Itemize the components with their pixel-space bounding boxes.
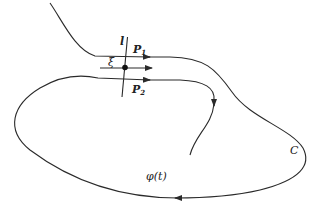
label-c: C	[290, 144, 299, 157]
label-xi: ξ	[108, 56, 115, 69]
trajectory-inner	[148, 80, 214, 106]
point-xi	[122, 65, 128, 71]
label-phi-t: φ(t)	[146, 170, 167, 183]
label-p1: P1	[132, 43, 146, 57]
label-p2: P2	[131, 83, 145, 97]
diagram-canvas: l P1 ξ P2 C φ(t)	[0, 0, 312, 206]
closed-curve-c	[148, 57, 306, 198]
label-l: l	[120, 35, 124, 48]
trajectory-inner-tail	[190, 104, 214, 155]
